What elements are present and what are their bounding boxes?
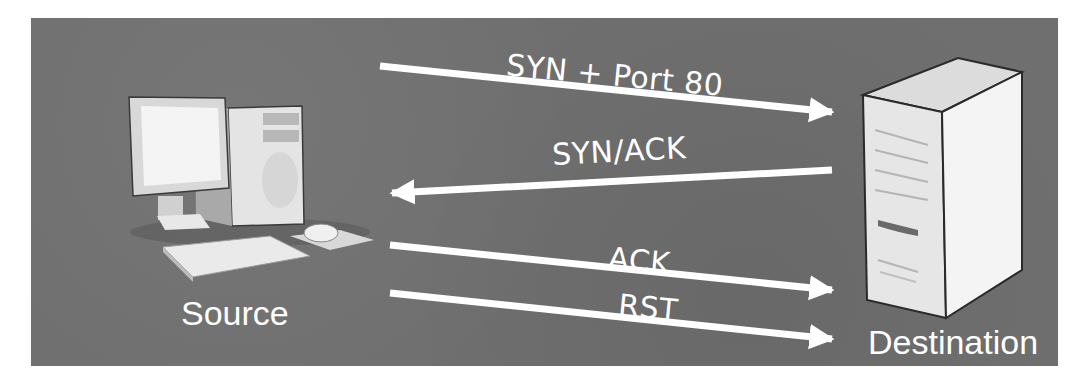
- node-label-destination: Destination: [868, 325, 1038, 359]
- arrow-rst: [390, 293, 832, 339]
- message-label-ack: ACK: [607, 243, 672, 279]
- arrow-syn-ack: [392, 170, 832, 193]
- desktop-computer-icon: [129, 97, 374, 282]
- message-label-rst: RST: [617, 290, 679, 326]
- message-label-syn-ack: SYN/ACK: [551, 133, 686, 170]
- node-label-source: Source: [181, 296, 289, 330]
- server-tower-icon: [863, 58, 1022, 318]
